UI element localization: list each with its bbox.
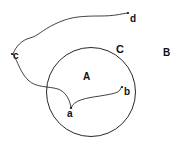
diagram-canvas: a b c d A B C xyxy=(0,0,183,146)
curve-a-c xyxy=(13,54,71,108)
boundary-circle-c xyxy=(47,48,136,137)
label-a: a xyxy=(67,108,73,119)
curve-a-b xyxy=(71,87,122,108)
point-d-dot xyxy=(127,12,129,14)
label-d: d xyxy=(130,13,136,24)
curve-c-d xyxy=(13,13,128,54)
region-label-a: A xyxy=(83,71,90,82)
boundary-label-c: C xyxy=(116,43,124,55)
point-b-dot xyxy=(121,86,123,88)
label-c: c xyxy=(13,50,19,61)
label-b: b xyxy=(124,86,130,97)
region-label-b: B xyxy=(163,47,170,58)
